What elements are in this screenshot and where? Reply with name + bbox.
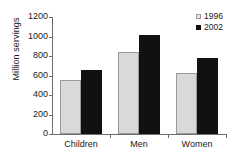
y-tick-mark: [49, 134, 52, 135]
plot-area: 020040060080010001200: [52, 17, 226, 134]
bar: [176, 73, 197, 134]
x-axis-separator: [226, 134, 227, 138]
y-tick-label: 200: [33, 109, 48, 119]
y-tick-label: 1200: [28, 11, 48, 21]
x-axis-separator: [168, 134, 169, 138]
y-tick-label: 800: [33, 50, 48, 60]
legend-swatch-icon-1996: [196, 14, 201, 19]
x-axis-label: Men: [110, 139, 168, 149]
legend-swatch-icon-2002: [196, 25, 201, 30]
x-axis-line: [52, 134, 226, 135]
legend: 1996 2002: [196, 11, 223, 33]
bar-group: [118, 17, 160, 134]
bar-group: [176, 17, 218, 134]
y-tick-mark: [49, 115, 52, 116]
y-axis-line: [52, 17, 53, 134]
bar-chart: Million servings 020040060080010001200 C…: [0, 0, 248, 158]
y-tick-mark: [49, 95, 52, 96]
bar: [81, 70, 102, 134]
y-tick-label: 600: [33, 70, 48, 80]
legend-item-2002: 2002: [196, 22, 223, 32]
bar: [118, 52, 139, 134]
y-tick-label: 0: [43, 128, 48, 138]
y-tick-label: 1000: [28, 31, 48, 41]
y-tick-mark: [49, 17, 52, 18]
bar-group: [60, 17, 102, 134]
bar: [60, 80, 81, 134]
bar: [139, 35, 160, 134]
legend-item-1996: 1996: [196, 11, 223, 21]
bar: [197, 58, 218, 134]
y-tick-mark: [49, 56, 52, 57]
x-axis-label: Women: [168, 139, 226, 149]
x-axis-label: Children: [52, 139, 110, 149]
legend-label-1996: 1996: [204, 11, 223, 21]
y-tick-mark: [49, 37, 52, 38]
y-tick-mark: [49, 76, 52, 77]
legend-label-2002: 2002: [204, 22, 223, 32]
y-tick-label: 400: [33, 89, 48, 99]
x-axis-separator: [110, 134, 111, 138]
y-axis-title: Million servings: [11, 0, 21, 99]
